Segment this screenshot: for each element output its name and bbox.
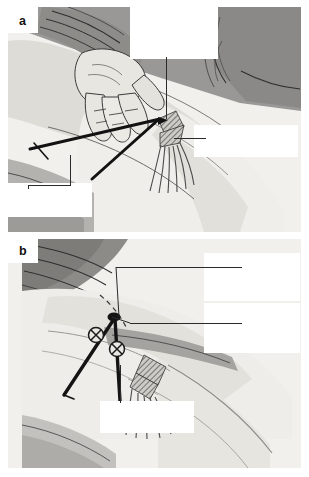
- panel-b-illustration: [8, 239, 301, 468]
- leader-infrapiriform-foramen: [120, 365, 121, 403]
- leader-posterior-superior-iliac-spine: [130, 323, 242, 324]
- panel-b-letter: b: [16, 243, 30, 258]
- panel-b: b Supra- piriform foramen Posterior supe…: [8, 239, 301, 468]
- panel-b-label-backdrop-3: [100, 401, 194, 433]
- leader-suprapiriform-foramen: [116, 267, 242, 268]
- anatomy-figure: a Inferior lateral angle of the sacrum I…: [0, 0, 309, 477]
- crossed-circle-marker-1: [89, 328, 104, 343]
- leader-ischial-tuberosity: [174, 138, 206, 139]
- panel-a-illustration: [8, 7, 301, 232]
- panel-a-letter: a: [16, 13, 29, 28]
- leader-greater-trochanter-drop: [28, 185, 29, 189]
- crossed-circle-marker-2: [110, 342, 125, 357]
- panel-a-label-backdrop-3: [8, 183, 92, 217]
- leader-inferior-lateral-angle: [166, 57, 167, 119]
- panel-b-label-backdrop-2: [204, 303, 300, 353]
- panel-b-label-backdrop: [204, 253, 300, 301]
- leader-greater-trochanter-h: [28, 185, 71, 186]
- panel-a-label-backdrop-2: [194, 125, 298, 157]
- psis-point: [108, 312, 121, 321]
- leader-greater-trochanter-v: [70, 155, 71, 185]
- panel-a: a Inferior lateral angle of the sacrum I…: [8, 7, 301, 232]
- panel-a-label-backdrop: [130, 7, 218, 59]
